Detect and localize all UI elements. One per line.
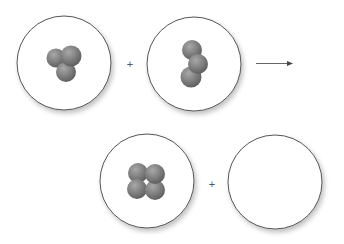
atom	[145, 164, 165, 184]
reactant-box-1	[17, 16, 111, 110]
container-circle	[100, 134, 194, 228]
atom	[127, 179, 147, 199]
container-circle	[228, 135, 322, 229]
atom	[61, 46, 82, 67]
reactant-box-2	[147, 17, 241, 111]
reaction-diagram: + +	[0, 0, 344, 244]
product-box-1	[100, 134, 194, 228]
reaction-arrow-icon	[256, 61, 293, 66]
plus-sign: +	[127, 58, 133, 70]
atom	[188, 54, 208, 74]
plus-sign: +	[209, 178, 215, 190]
product-box-2-empty	[228, 135, 322, 229]
